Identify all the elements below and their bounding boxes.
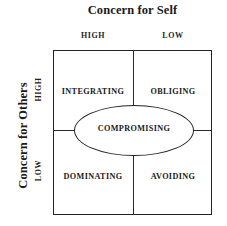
quadrant-compromising: COMPROMISING	[74, 124, 194, 133]
quadrant-integrating: INTEGRATING	[53, 87, 133, 96]
chart-title: Concern for Self	[53, 3, 212, 18]
quadrant-avoiding: AVOIDING	[133, 172, 213, 181]
y-axis-title: Concern for Others	[16, 56, 31, 216]
compromising-ellipse: COMPROMISING	[74, 105, 194, 156]
row-header-high: HIGH	[34, 55, 43, 125]
column-header-high: HIGH	[53, 31, 133, 40]
column-header-low: LOW	[133, 31, 213, 40]
quadrant-obliging: OBLIGING	[133, 87, 213, 96]
quadrant-dominating: DOMINATING	[53, 172, 133, 181]
row-header-low: LOW	[34, 136, 43, 206]
conflict-styles-diagram: Concern for Self HIGH LOW Concern for Ot…	[0, 0, 227, 226]
